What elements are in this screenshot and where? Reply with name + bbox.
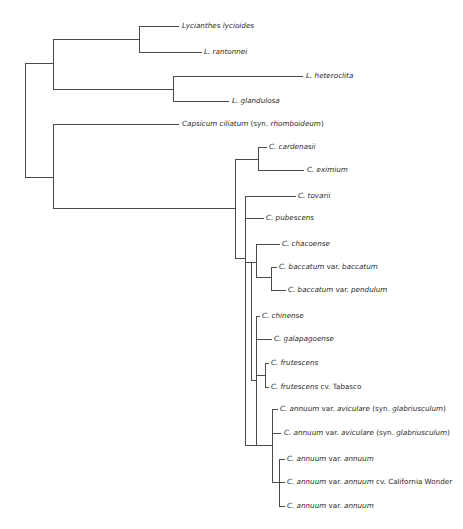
taxon-label-part: annuum: [344, 477, 374, 486]
taxon-label-part: C. annuum: [287, 501, 326, 510]
taxon-label-l-rantonnei: L. rantonnei: [204, 48, 247, 55]
taxon-label-c-annuum-aviculare-2: C. annuum var. aviculare (syn. glabriusc…: [284, 429, 450, 436]
taxon-label-part: cv. Tabasco: [318, 382, 361, 391]
taxon-label-capsicum-ciliatum: Capsicum ciliatum (syn. rhomboideum): [182, 120, 324, 127]
taxon-label-part: pendulum: [351, 285, 387, 294]
taxon-label-part: C. eximium: [307, 165, 348, 174]
taxon-label-part: C. annuum: [284, 428, 323, 437]
taxon-label-c-cardenasii: C. cardenasii: [269, 143, 316, 150]
taxon-label-part: glabriusculum: [396, 428, 447, 437]
taxon-label-part: L. heteroclita: [306, 71, 353, 80]
taxon-label-part: C. frutescens: [271, 358, 318, 367]
taxon-label-part: glabriusculum: [392, 404, 443, 413]
taxon-label-c-frutescens-tabasco: C. frutescens cv. Tabasco: [271, 383, 361, 390]
taxon-label-part: C. tovarii: [298, 191, 330, 200]
taxon-label-part: rhomboideum: [270, 119, 320, 128]
taxon-label-part: C. annuum: [287, 454, 326, 463]
taxon-label-part: C. frutescens: [271, 382, 318, 391]
taxon-label-part: aviculare: [337, 404, 370, 413]
taxon-label-c-frutescens: C. frutescens: [271, 359, 318, 366]
taxon-label-part: L. rantonnei: [204, 47, 247, 56]
taxon-label-part: var.: [333, 285, 351, 294]
taxon-label-part: C. chacoense: [282, 239, 330, 248]
taxon-label-part: ): [447, 428, 450, 437]
taxon-label-part: (syn.: [248, 119, 270, 128]
taxon-label-c-tovarii: C. tovarii: [298, 192, 330, 199]
taxon-label-c-annuum-aviculare-1: C. annuum var. aviculare (syn. glabriusc…: [280, 405, 446, 412]
taxon-label-part: Capsicum ciliatum: [182, 119, 248, 128]
taxon-label-part: baccatum: [342, 262, 378, 271]
taxon-label-part: var.: [326, 477, 344, 486]
taxon-label-part: annuum: [344, 454, 374, 463]
taxon-label-part: C. annuum: [287, 477, 326, 486]
taxon-label-part: var.: [323, 428, 341, 437]
taxon-label-part: var.: [324, 262, 342, 271]
taxon-label-part: C. pubescens: [266, 213, 314, 222]
taxon-label-part: C. baccatum: [279, 262, 324, 271]
taxon-label-part: (syn.: [374, 428, 396, 437]
taxon-label-c-chinense: C. chinense: [262, 312, 304, 319]
taxon-label-part: C. galapagoense: [274, 334, 334, 343]
taxon-label-part: var.: [326, 454, 344, 463]
taxon-label-l-glandulosa: L. glandulosa: [232, 97, 280, 104]
taxon-label-c-chacoense: C. chacoense: [282, 240, 330, 247]
taxon-label-part: C. baccatum: [288, 285, 333, 294]
taxon-label-l-heteroclita: L. heteroclita: [306, 72, 353, 79]
taxon-label-part: Lycianthes lycioides: [182, 21, 254, 30]
taxon-label-c-eximium: C. eximium: [307, 166, 348, 173]
taxon-label-c-baccatum-pendulum: C. baccatum var. pendulum: [288, 286, 387, 293]
taxon-label-part: aviculare: [341, 428, 374, 437]
phylogenetic-tree: Lycianthes lycioidesL. rantonneiL. heter…: [0, 0, 463, 529]
taxon-label-part: (syn.: [370, 404, 392, 413]
taxon-label-part: var.: [319, 404, 337, 413]
taxon-label-c-baccatum-baccatum: C. baccatum var. baccatum: [279, 263, 378, 270]
taxon-label-part: cv. California Wonder: [374, 477, 453, 486]
taxon-label-c-pubescens: C. pubescens: [266, 214, 314, 221]
taxon-label-c-annuum-annuum-2: C. annuum var. annuum: [287, 502, 374, 509]
taxon-label-c-galapagoense: C. galapagoense: [274, 335, 334, 342]
taxon-label-part: C. chinense: [262, 311, 304, 320]
taxon-label-part: var.: [326, 501, 344, 510]
taxon-label-part: ): [321, 119, 324, 128]
taxon-label-part: ): [443, 404, 446, 413]
taxon-label-c-annuum-california-wonder: C. annuum var. annuum cv. California Won…: [287, 478, 452, 485]
taxon-label-lycianthes-lycioides: Lycianthes lycioides: [182, 22, 254, 29]
taxon-label-part: C. cardenasii: [269, 142, 316, 151]
taxon-label-part: C. annuum: [280, 404, 319, 413]
taxon-label-part: L. glandulosa: [232, 96, 280, 105]
taxon-label-part: annuum: [344, 501, 374, 510]
taxon-label-c-annuum-annuum-1: C. annuum var. annuum: [287, 455, 374, 462]
tree-branches: [0, 0, 463, 529]
